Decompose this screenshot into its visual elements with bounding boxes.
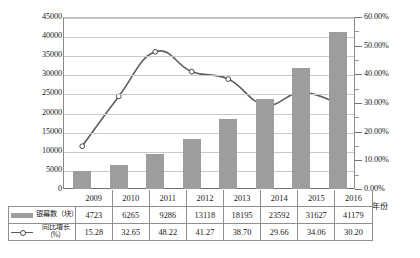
y-axis-tick-label: 5000	[12, 166, 62, 174]
y2-axis-tick-label: 60.00%	[364, 13, 418, 21]
y2-axis-tick-label: 40.00%	[364, 70, 418, 78]
table-header-cell-year: 2013	[224, 190, 261, 207]
gridline	[64, 18, 354, 19]
x-axis-line	[64, 188, 354, 189]
gridline	[64, 133, 354, 134]
table-data-cell: 29.66	[261, 224, 298, 241]
y2-axis-major-tick	[355, 74, 362, 75]
bar	[329, 32, 347, 189]
chart-plot-region: 0500010000150002000025000300003500040000…	[0, 0, 420, 192]
y-axis-tick-label: 45000	[12, 13, 62, 21]
table-data-cell: 15.28	[76, 224, 113, 241]
table-data-cell: 48.22	[149, 224, 186, 241]
y2-axis-tick-label: 10.00%	[364, 156, 418, 164]
y2-axis-tick-label: 50.00%	[364, 42, 418, 50]
y-axis-tick-label: 20000	[12, 109, 62, 117]
table-row: 同比增长（%）15.2832.6548.2241.2738.7029.6634.…	[9, 224, 373, 241]
table-data-cell: 31627	[298, 207, 335, 224]
table-data-cell: 41179	[335, 207, 372, 224]
y2-axis-minor-tick	[355, 117, 359, 118]
gridline	[64, 56, 354, 57]
line-swatch-icon	[11, 229, 33, 236]
y2-axis-major-tick	[355, 160, 362, 161]
data-table: 20092010201120122013201420152016银幕数（块）47…	[8, 190, 373, 241]
x-axis-title: 年份	[372, 200, 388, 211]
legend-cell: 同比增长（%）	[9, 224, 76, 241]
data-point-marker	[153, 49, 158, 54]
y-axis-tick-label: 35000	[12, 51, 62, 59]
table-corner-cell	[9, 190, 76, 207]
gridline	[64, 37, 354, 38]
table-data-cell: 23592	[261, 207, 298, 224]
legend-label-sub: （%）	[36, 232, 75, 240]
table-header-cell-year: 2014	[261, 190, 298, 207]
bar	[110, 165, 128, 189]
y2-axis-tick-label: 30.00%	[364, 99, 418, 107]
y-axis-tick-label: 30000	[12, 70, 62, 78]
y2-axis-tick-label: 20.00%	[364, 128, 418, 136]
bar	[219, 119, 237, 189]
y2-axis-minor-tick	[355, 146, 359, 147]
data-point-marker	[226, 77, 231, 82]
y-axis-tick-label: 10000	[12, 147, 62, 155]
table-header-cell-year: 2009	[76, 190, 113, 207]
y2-axis-minor-tick	[355, 89, 359, 90]
gridline	[64, 94, 354, 95]
bar	[73, 171, 91, 189]
table-data-cell: 30.20	[335, 224, 372, 241]
bar-swatch-icon	[11, 213, 33, 218]
chart-figure: 0500010000150002000025000300003500040000…	[0, 0, 420, 258]
table-header-cell-year: 2011	[149, 190, 186, 207]
bar	[292, 68, 310, 189]
y-axis-tick-label: 25000	[12, 89, 62, 97]
y2-axis-minor-tick	[355, 31, 359, 32]
table-header-cell-year: 2012	[186, 190, 223, 207]
y2-axis-major-tick	[355, 17, 362, 18]
growth-line-series	[64, 18, 356, 190]
y-axis-tick-label: 40000	[12, 32, 62, 40]
table-row: 银幕数（块）4723626592861311818195235923162741…	[9, 207, 373, 224]
y2-axis-major-tick	[355, 132, 362, 133]
data-point-marker	[189, 69, 194, 74]
legend-cell: 银幕数（块）	[9, 207, 76, 224]
legend-label: 同比增长（%）	[36, 224, 75, 239]
legend-label: 银幕数（块）	[36, 211, 76, 219]
table-data-cell: 18195	[224, 207, 261, 224]
plot-area	[63, 17, 355, 189]
gridline	[64, 171, 354, 172]
gridline	[64, 75, 354, 76]
table-data-cell: 9286	[149, 207, 186, 224]
gridline	[64, 152, 354, 153]
table-data-cell: 38.70	[224, 224, 261, 241]
y2-axis-minor-tick	[355, 60, 359, 61]
table-data-cell: 13118	[186, 207, 223, 224]
table-header-cell-year: 2016	[335, 190, 372, 207]
gridline	[64, 114, 354, 115]
table-header-row: 20092010201120122013201420152016	[9, 190, 373, 207]
y2-axis-major-tick	[355, 46, 362, 47]
data-point-marker	[80, 144, 85, 149]
bar	[256, 99, 274, 189]
table-header-cell-year: 2010	[112, 190, 149, 207]
y2-axis-minor-tick	[355, 175, 359, 176]
y-axis-tick-label: 15000	[12, 128, 62, 136]
table-header-cell-year: 2015	[298, 190, 335, 207]
y2-axis-major-tick	[355, 103, 362, 104]
bar	[146, 154, 164, 189]
bar	[183, 139, 201, 189]
table-data-cell: 32.65	[112, 224, 149, 241]
table-data-cell: 34.06	[298, 224, 335, 241]
table-data-cell: 4723	[76, 207, 113, 224]
table-data-cell: 41.27	[186, 224, 223, 241]
table-data-cell: 6265	[112, 207, 149, 224]
